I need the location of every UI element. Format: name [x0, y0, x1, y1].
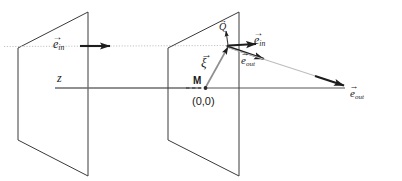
m-point-label: M — [193, 76, 201, 86]
q-vector-label: →Q — [219, 22, 226, 32]
vector-accent-icon: → — [253, 28, 263, 38]
plane-right — [168, 12, 239, 176]
scattering-diagram-svg — [0, 0, 402, 181]
xi-vector-label: →ξ — [201, 56, 207, 69]
q-vector-arrow — [226, 31, 228, 45]
origin-label: (0,0) — [192, 96, 215, 107]
incoming-ray-dotted — [4, 46, 228, 47]
vector-accent-icon: → — [219, 17, 227, 25]
e-in-left-label: →ein — [53, 38, 64, 51]
vector-accent-icon: → — [201, 50, 211, 61]
e-out-far-arrow — [315, 76, 344, 86]
e-out-far-label: →eout — [350, 88, 364, 101]
e-in-right-label: →ein — [254, 34, 265, 47]
vector-accent-icon: → — [349, 82, 358, 91]
diagram-canvas: →ein z →Q →ein →eout →ξ M (0,0) →eout — [0, 0, 402, 181]
vector-accent-icon: → — [240, 49, 249, 58]
scatter-point-dot — [226, 44, 229, 47]
origin-dot — [204, 86, 208, 90]
e-out-near-label: →eout — [241, 55, 255, 68]
vector-accent-icon: → — [52, 32, 62, 42]
e-in-right-arrow — [229, 44, 256, 46]
z-axis-label: z — [57, 72, 62, 84]
